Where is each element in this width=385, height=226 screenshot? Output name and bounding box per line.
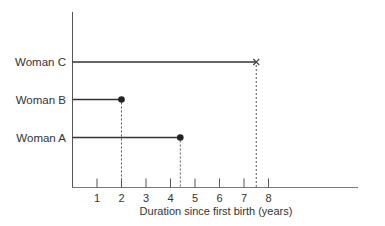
x-tick-label: 1 (94, 192, 100, 204)
event-dot-marker (177, 134, 184, 141)
series-woman-a: Woman A (16, 132, 183, 188)
x-tick-label: 5 (192, 192, 198, 204)
x-tick-label: 2 (118, 192, 124, 204)
event-dot-marker (118, 96, 125, 103)
x-axis-label: Duration since first birth (years) (140, 205, 293, 217)
series: Woman CWoman BWoman A (15, 56, 259, 188)
series-woman-c: Woman C (15, 56, 259, 188)
x-tick-label: 3 (143, 192, 149, 204)
x-ticks: 12345678 (94, 179, 272, 204)
chart: 12345678 Woman CWoman BWoman A Duration … (0, 0, 385, 226)
x-tick-label: 7 (241, 192, 247, 204)
series-label: Woman B (16, 94, 67, 106)
x-tick-label: 8 (265, 192, 271, 204)
x-tick-label: 6 (216, 192, 222, 204)
series-label: Woman A (16, 132, 66, 144)
series-label: Woman C (15, 56, 66, 68)
x-tick-label: 4 (167, 192, 173, 204)
